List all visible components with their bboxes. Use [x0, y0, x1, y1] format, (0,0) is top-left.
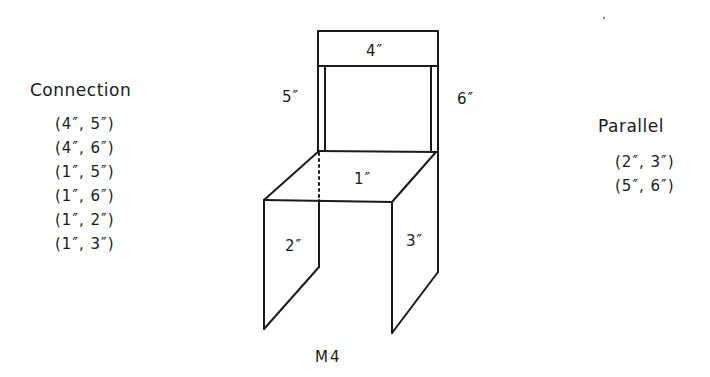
- left-post: [318, 66, 325, 151]
- label-right-post: 6″: [457, 90, 474, 108]
- chair-diagram: 4″ 5″ 6″ 1″ 2″ 3″ M4: [0, 0, 710, 377]
- diagram-caption: M4: [315, 348, 342, 366]
- artifact-dot: [603, 17, 605, 19]
- left-leg: [264, 200, 319, 329]
- right-post: [431, 66, 438, 152]
- label-right-leg: 3″: [406, 232, 423, 250]
- label-left-leg: 2″: [285, 237, 302, 255]
- label-seat: 1″: [354, 170, 371, 188]
- label-left-post: 5″: [282, 88, 299, 106]
- label-top-rail: 4″: [366, 42, 383, 60]
- seat: [264, 151, 438, 202]
